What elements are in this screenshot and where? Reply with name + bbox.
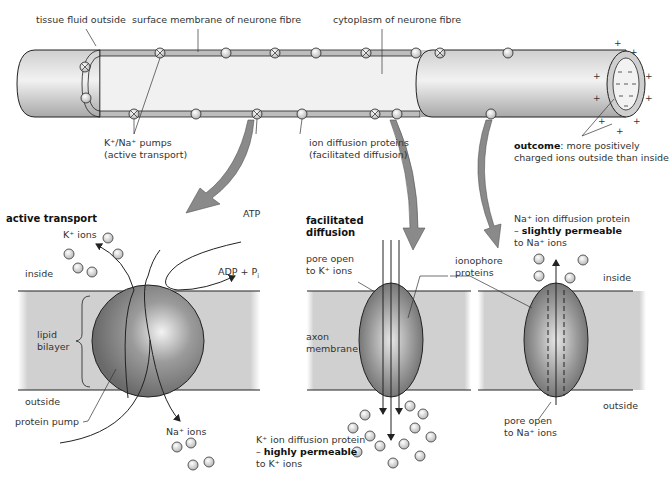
label-pumps-1: K⁺/Na⁺ pumps <box>104 137 172 149</box>
label-outcome-2: charged ions outside than inside <box>514 152 669 164</box>
title-facilitated-1: facilitated <box>306 215 364 227</box>
neurone-fibre: ++ ++ ++ ++ + <box>17 29 653 136</box>
svg-text:+: + <box>645 93 653 103</box>
label-k-protein-2: – highly permeable <box>256 446 357 458</box>
svg-text:+: + <box>593 71 601 81</box>
label-na-protein-3: to Na⁺ ions <box>514 237 567 249</box>
label-outside-na: outside <box>603 400 638 412</box>
svg-text:+: + <box>614 38 622 48</box>
label-ionophore-1: ionophore <box>455 255 503 267</box>
label-lipid-1: lipid <box>37 329 57 341</box>
adp-text: ADP + P <box>218 266 257 277</box>
label-axon-1: axon <box>306 331 329 343</box>
label-pore-k-1: pore open <box>306 253 354 265</box>
label-pumps-2: (active transport) <box>104 149 187 161</box>
svg-text:+: + <box>633 116 641 126</box>
na-dash: – <box>514 225 522 236</box>
label-na-protein-2: – slightly permeable <box>514 225 622 237</box>
outcome-bold: outcome <box>514 140 560 151</box>
k-dash: – <box>256 446 264 457</box>
label-na-ions: Na⁺ ions <box>166 426 206 438</box>
label-diffusion-1: ion diffusion proteins <box>309 137 409 149</box>
label-k-ions: K⁺ ions <box>63 229 97 241</box>
label-lipid-2: bilayer <box>37 341 70 353</box>
label-adp: ADP + Pi <box>218 266 259 278</box>
label-na-protein-1: Na⁺ ion diffusion protein <box>514 213 630 225</box>
label-pore-na-2: to Na⁺ ions <box>504 427 557 439</box>
na-slightly-permeable: slightly permeable <box>522 225 622 236</box>
k-highly-permeable: highly permeable <box>264 446 358 457</box>
label-ionophore-2: proteins <box>455 267 494 279</box>
adp-sub: i <box>257 272 259 280</box>
label-protein-pump: protein pump <box>15 416 79 428</box>
label-outcome-1: outcome: more positively <box>514 140 640 152</box>
svg-text:+: + <box>645 71 653 81</box>
label-tissue-fluid: tissue fluid outside <box>36 14 126 26</box>
label-surface-membrane: surface membrane of neurone fibre <box>132 14 301 26</box>
label-pore-na-1: pore open <box>504 415 552 427</box>
label-k-protein-1: K⁺ ion diffusion protein <box>256 434 365 446</box>
svg-text:+: + <box>616 126 624 136</box>
svg-text:+: + <box>593 93 601 103</box>
label-inside-active: inside <box>25 268 53 280</box>
label-cytoplasm: cytoplasm of neurone fibre <box>333 14 461 26</box>
label-axon-2: membrane <box>306 343 358 355</box>
label-inside-na: inside <box>603 272 631 284</box>
title-facilitated-2: diffusion <box>306 227 355 239</box>
svg-text:+: + <box>598 116 606 126</box>
outcome-rest: : more positively <box>560 140 639 151</box>
label-pore-k-2: to K⁺ ions <box>306 265 352 277</box>
label-outside-active: outside <box>25 396 60 408</box>
svg-text:+: + <box>630 47 638 57</box>
label-k-protein-3: to K⁺ ions <box>256 458 302 470</box>
label-diffusion-2: (facilitated diffusion) <box>309 149 408 161</box>
label-atp: ATP <box>243 208 260 220</box>
title-active-transport: active transport <box>6 213 97 225</box>
